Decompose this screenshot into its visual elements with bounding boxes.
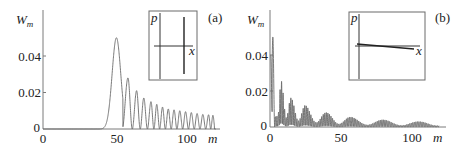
x-axis-label-a: m: [208, 131, 217, 146]
inset-a: p x: [149, 10, 197, 80]
inset-b: p x: [349, 10, 425, 80]
figure-svg: Wm 0.04 0.02 0 0 50 100 m p x (a) Wm: [0, 0, 465, 155]
y-tick-label-b: 0.04: [245, 48, 268, 63]
inset-p-label-b: p: [350, 10, 358, 25]
x-tick-label-a: 100: [177, 131, 197, 146]
panel-label-a: (a): [208, 10, 222, 25]
y-axis-label-b: Wm: [247, 12, 265, 29]
figure: Wm 0.04 0.02 0 0 50 100 m p x (a) Wm: [0, 0, 465, 155]
x-axis-label-b: m: [433, 130, 442, 145]
y-tick-label-a: 0.02: [18, 85, 41, 100]
x-tick-label-a: 50: [111, 131, 124, 146]
y-tick-label-b: 0.02: [245, 84, 268, 99]
inset-p-label-a: p: [150, 10, 158, 25]
x-tick-label-b: 100: [402, 130, 422, 145]
inset-x-label-b: x: [415, 43, 422, 58]
panel-a: Wm 0.04 0.02 0 0 50 100 m p x (a): [16, 10, 222, 146]
y-tick-label-a: 0.04: [18, 49, 41, 64]
x-tick-label-b: 50: [335, 130, 348, 145]
panel-b: Wm 0.04 0.02 0 0 50 100 m p x (b): [245, 10, 450, 145]
panel-label-b: (b): [435, 10, 450, 25]
y-axis-label-a: Wm: [16, 12, 34, 29]
inset-x-label-a: x: [188, 43, 195, 58]
x-tick-label-b: 0: [267, 130, 274, 145]
x-tick-label-a: 0: [40, 131, 47, 146]
